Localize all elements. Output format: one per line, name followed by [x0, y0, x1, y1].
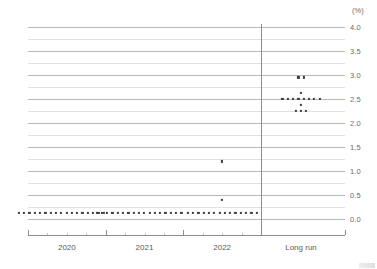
gridline-minor	[28, 159, 345, 160]
data-dot	[170, 212, 172, 214]
data-dot	[92, 212, 94, 214]
data-dot	[208, 212, 210, 214]
data-dot	[245, 212, 247, 214]
y-axis-tick-label: 1.5	[350, 143, 361, 152]
x-axis-tick-minor	[125, 233, 126, 236]
gridline-major	[28, 195, 345, 196]
corner-watermark	[359, 263, 375, 268]
data-dot	[39, 212, 41, 214]
data-dot	[213, 212, 215, 214]
data-dot	[295, 110, 297, 112]
y-axis-tick-label: 0.0	[350, 215, 361, 224]
data-dot	[224, 212, 226, 214]
x-axis-tick	[345, 230, 346, 235]
data-dot	[305, 110, 307, 112]
x-axis-line	[28, 235, 345, 236]
data-dot	[240, 212, 242, 214]
y-axis-tick-label: 1.0	[350, 167, 361, 176]
data-dot	[300, 92, 302, 94]
gridline-major	[28, 123, 345, 124]
data-dot	[297, 76, 299, 78]
long-run-divider	[261, 24, 262, 235]
x-axis-tick-minor	[242, 233, 243, 236]
x-axis-tick-minor	[86, 233, 87, 236]
data-dot	[297, 98, 299, 100]
data-dot	[127, 212, 129, 214]
data-dot	[308, 98, 310, 100]
data-dot	[111, 212, 113, 214]
gridline-minor	[28, 87, 345, 88]
data-dot	[101, 212, 103, 214]
data-dot	[256, 212, 258, 214]
data-dot	[81, 212, 83, 214]
data-dot	[221, 199, 223, 201]
x-axis-tick	[106, 230, 107, 235]
data-dot	[300, 104, 302, 106]
gridline-major	[28, 147, 345, 148]
x-axis-tick-minor	[164, 233, 165, 236]
x-axis-tick	[28, 230, 29, 235]
x-axis-category-label: 2020	[58, 243, 76, 252]
y-axis-tick-label: 2.0	[350, 119, 361, 128]
data-dot	[23, 212, 25, 214]
data-dot	[187, 212, 189, 214]
data-dot	[313, 98, 315, 100]
data-dot	[287, 98, 289, 100]
gridline-major	[28, 27, 345, 28]
data-dot	[154, 212, 156, 214]
data-dot	[148, 212, 150, 214]
data-dot	[192, 212, 194, 214]
y-axis-tick-label: 2.5	[350, 95, 361, 104]
data-dot	[133, 212, 135, 214]
data-dot	[303, 76, 305, 78]
x-axis-tick-minor	[203, 233, 204, 236]
gridline-minor	[28, 207, 345, 208]
data-dot	[197, 212, 199, 214]
data-dot	[303, 98, 305, 100]
y-axis-tick-label: 3.5	[350, 47, 361, 56]
gridline-minor	[28, 63, 345, 64]
data-dot	[65, 212, 67, 214]
data-dot	[95, 212, 97, 214]
gridline-minor	[28, 183, 345, 184]
x-axis-tick-minor	[145, 233, 146, 236]
dot-plot-chart: 0.00.51.01.52.02.53.03.54.0 (%) 20202021…	[0, 0, 377, 269]
x-axis-tick	[261, 230, 262, 235]
gridline-major	[28, 51, 345, 52]
data-dot	[164, 212, 166, 214]
data-dot	[250, 212, 252, 214]
data-dot	[34, 212, 36, 214]
data-dot	[117, 212, 119, 214]
x-axis-category-label: 2021	[136, 243, 154, 252]
data-dot	[71, 212, 73, 214]
y-axis-unit-label: (%)	[352, 6, 364, 15]
gridline-major	[28, 219, 345, 220]
data-dot	[300, 110, 302, 112]
x-axis-tick	[183, 230, 184, 235]
data-dot	[18, 212, 20, 214]
y-axis-tick-label: 4.0	[350, 23, 361, 32]
data-dot	[50, 212, 52, 214]
data-dot	[175, 212, 177, 214]
x-axis-category-label: Long run	[285, 243, 317, 252]
data-dot	[203, 212, 205, 214]
x-axis-tick-minor	[47, 233, 48, 236]
data-dot	[234, 212, 236, 214]
data-dot	[229, 212, 231, 214]
gridline-minor	[28, 135, 345, 136]
x-axis-tick-minor	[222, 233, 223, 236]
data-dot	[218, 212, 220, 214]
data-dot	[138, 212, 140, 214]
data-dot	[60, 212, 62, 214]
data-dot	[180, 212, 182, 214]
x-axis-tick-minor	[67, 233, 68, 236]
data-dot	[292, 98, 294, 100]
data-dot	[159, 212, 161, 214]
gridline-minor	[28, 111, 345, 112]
data-dot	[106, 212, 108, 214]
data-dot	[28, 212, 30, 214]
data-dot	[281, 98, 283, 100]
y-axis-tick-label: 3.0	[350, 71, 361, 80]
data-dot	[55, 212, 57, 214]
data-dot	[87, 212, 89, 214]
